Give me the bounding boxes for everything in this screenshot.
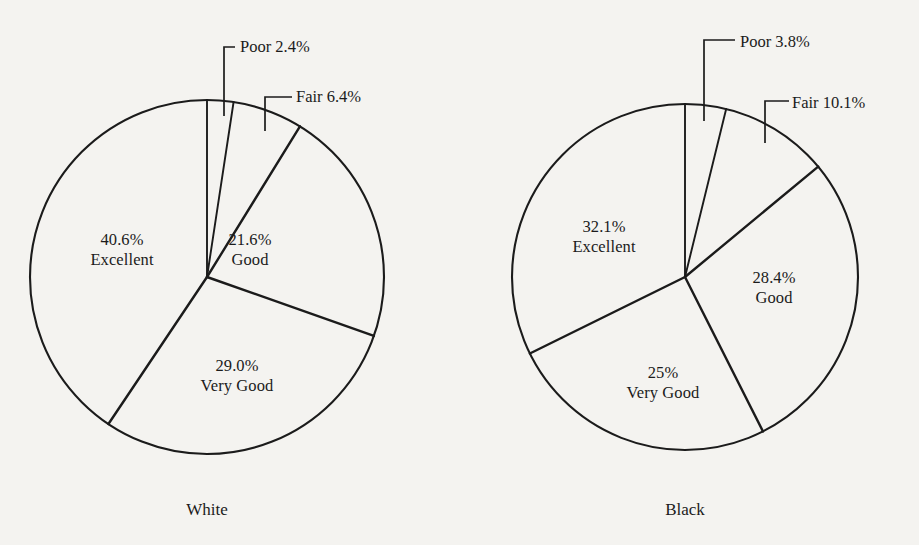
slice-label-excellent-black: 32.1% Excellent bbox=[572, 217, 635, 257]
slice-name: Very Good bbox=[627, 383, 700, 403]
callout-label-fair-black: Fair 10.1% bbox=[792, 94, 865, 112]
panel-caption-black: Black bbox=[665, 500, 705, 520]
slice-label-excellent-white: 40.6% Excellent bbox=[90, 230, 153, 270]
slice-label-good-black: 28.4% Good bbox=[752, 268, 795, 308]
slice-percent: 28.4% bbox=[752, 268, 795, 288]
slice-label-very-good-white: 29.0% Very Good bbox=[201, 356, 274, 396]
slice-name: Excellent bbox=[572, 237, 635, 257]
pie-chart-figure: 40.6% Excellent 21.6% Good 29.0% Very Go… bbox=[0, 0, 919, 545]
slice-name: Good bbox=[228, 250, 271, 270]
callout-label-poor-black: Poor 3.8% bbox=[740, 33, 810, 51]
slice-percent: 25% bbox=[627, 363, 700, 383]
slice-percent: 21.6% bbox=[228, 230, 271, 250]
panel-caption-white: White bbox=[186, 500, 228, 520]
callout-label-fair-white: Fair 6.4% bbox=[296, 88, 361, 106]
slice-label-good-white: 21.6% Good bbox=[228, 230, 271, 270]
pie-panel-white: 40.6% Excellent 21.6% Good 29.0% Very Go… bbox=[0, 0, 460, 545]
pie-panel-black: 32.1% Excellent 28.4% Good 25% Very Good… bbox=[460, 0, 919, 545]
slice-percent: 40.6% bbox=[90, 230, 153, 250]
slice-name: Excellent bbox=[90, 250, 153, 270]
slice-percent: 29.0% bbox=[201, 356, 274, 376]
slice-name: Very Good bbox=[201, 376, 274, 396]
slice-name: Good bbox=[752, 288, 795, 308]
slice-label-very-good-black: 25% Very Good bbox=[627, 363, 700, 403]
pie-graphic-white bbox=[0, 0, 460, 545]
pie-graphic-black bbox=[460, 0, 919, 545]
callout-label-poor-white: Poor 2.4% bbox=[240, 38, 310, 56]
slice-percent: 32.1% bbox=[572, 217, 635, 237]
